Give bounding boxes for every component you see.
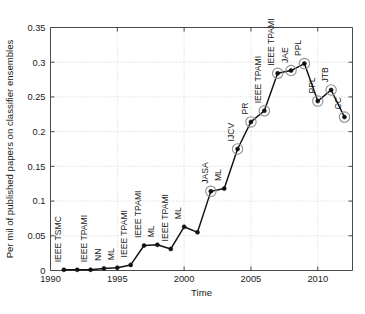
- point-annotation-label: IEEE TPAMI: [266, 18, 276, 65]
- point-annotation-label: PR: [240, 102, 250, 114]
- data-point-marker: [262, 109, 266, 113]
- point-annotation-label: ML: [146, 225, 156, 237]
- point-annotation-label: IEEE TSMC: [53, 216, 63, 262]
- data-point-marker: [155, 243, 159, 247]
- line-chart: 00.050.10.150.20.250.30.3519901995200020…: [0, 0, 365, 314]
- data-point-marker: [342, 115, 346, 119]
- x-tick-label: 2010: [307, 274, 328, 284]
- x-tick-label: 2005: [241, 274, 262, 284]
- point-annotation-label: IEEE TPAMI: [79, 215, 89, 262]
- y-tick-label: 0.25: [27, 92, 45, 102]
- data-point-marker: [62, 268, 66, 272]
- y-tick-label: 0.3: [33, 58, 46, 68]
- point-annotation-label: IEEE TPAMI: [119, 210, 129, 257]
- data-point-marker: [302, 62, 306, 66]
- y-tick-label: 0.35: [27, 23, 45, 33]
- point-annotation-label: JTB: [320, 67, 330, 83]
- point-annotation-label: IJCV: [226, 123, 236, 142]
- data-point-marker: [249, 120, 253, 124]
- y-axis-title: Per mil of published papers on classifie…: [4, 39, 15, 258]
- point-annotation-label: JASA: [200, 162, 210, 184]
- point-annotation-label: ML: [106, 248, 116, 260]
- x-tick-label: 1995: [107, 274, 128, 284]
- data-point-marker: [129, 263, 133, 267]
- data-point-marker: [329, 88, 333, 92]
- data-point-marker: [195, 230, 199, 234]
- point-annotation-label: ML: [173, 207, 183, 219]
- data-point-marker: [289, 69, 293, 73]
- data-point-marker: [75, 268, 79, 272]
- data-point-marker: [222, 187, 226, 191]
- x-axis-title: Time: [191, 287, 212, 298]
- data-point-marker: [169, 247, 173, 251]
- point-annotation-label: PPL: [293, 40, 303, 56]
- y-tick-label: 0.2: [33, 127, 46, 137]
- data-point-marker: [316, 99, 320, 103]
- data-point-marker: [115, 266, 119, 270]
- data-point-marker: [236, 147, 240, 151]
- data-point-marker: [102, 266, 106, 270]
- data-point-marker: [276, 71, 280, 75]
- point-annotation-label: NN: [93, 248, 103, 260]
- data-point-marker: [142, 244, 146, 248]
- data-point-marker: [182, 225, 186, 229]
- y-tick-label: 0.1: [33, 196, 46, 206]
- point-annotation-label: IEEE TPAMI: [160, 194, 170, 241]
- point-annotation-label: CC: [333, 97, 343, 109]
- chart-figure: 00.050.10.150.20.250.30.3519901995200020…: [0, 0, 365, 314]
- data-point-marker: [209, 189, 213, 193]
- point-annotation-label: ML: [213, 169, 223, 181]
- point-annotation-label: IEEE TPAMI: [253, 56, 263, 103]
- y-tick-label: 0.05: [27, 231, 45, 241]
- chart-background: [0, 0, 365, 314]
- x-tick-label: 2000: [174, 274, 195, 284]
- point-annotation-label: IEEE TPAMI: [133, 191, 143, 238]
- x-tick-label: 1990: [40, 274, 61, 284]
- point-annotation-label: PPL: [307, 77, 317, 93]
- y-tick-label: 0.15: [27, 162, 45, 172]
- data-point-marker: [89, 268, 93, 272]
- point-annotation-label: JAE: [280, 47, 290, 63]
